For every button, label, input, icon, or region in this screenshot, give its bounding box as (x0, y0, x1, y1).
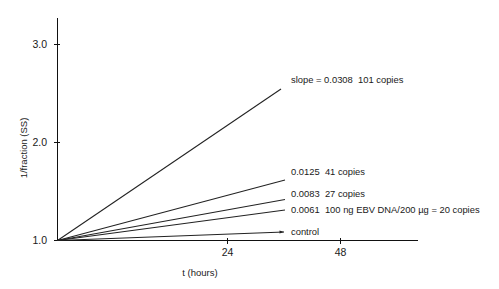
annotation-control: control (291, 226, 319, 237)
y-tick-label-3: 3.0 (32, 38, 47, 50)
x-tick-label-48: 48 (335, 246, 347, 258)
x-tick-label-24: 24 (222, 246, 234, 258)
chart-canvas: 3.0 2.0 1.0 24 48 1/fraction (SS) t (hou… (0, 0, 499, 289)
series-line-101-copies (58, 89, 282, 241)
series-line-41-copies (58, 180, 286, 241)
chart-figure: 3.0 2.0 1.0 24 48 1/fraction (SS) t (hou… (0, 0, 499, 289)
annotation-20-copies: 0.0061 100 ng EBV DNA/200 µg = 20 copies (291, 204, 480, 215)
control-arrow-icon (280, 231, 285, 234)
series-line-27-copies (58, 200, 286, 241)
y-tick-label-1: 1.0 (32, 234, 47, 246)
annotation-101-copies: slope = 0.0308 101 copies (291, 74, 404, 85)
y-axis-title: 1/fraction (SS) (18, 118, 29, 179)
annotation-41-copies: 0.0125 41 copies (291, 166, 365, 177)
annotation-27-copies: 0.0083 27 copies (291, 188, 365, 199)
y-tick-label-2: 2.0 (32, 136, 47, 148)
x-axis-title: t (hours) (182, 267, 217, 278)
